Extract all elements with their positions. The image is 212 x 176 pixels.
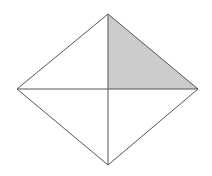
figure-canvas bbox=[0, 0, 212, 176]
rhombus-diagram bbox=[0, 0, 212, 176]
